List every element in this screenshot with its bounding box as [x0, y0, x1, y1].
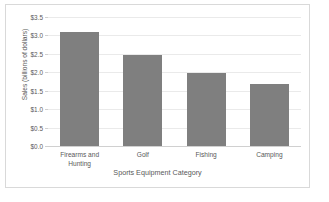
y-axis-tick-mark	[45, 54, 48, 55]
y-axis-tick-label: $2.0	[31, 69, 43, 76]
y-axis-tick-label: $3.0	[31, 32, 43, 39]
y-axis-title: Sales (billions of dollars)	[21, 0, 28, 130]
y-axis-tick-label: $2.5	[31, 50, 43, 57]
bar[interactable]	[123, 55, 162, 146]
y-axis-tick-mark	[45, 72, 48, 73]
y-axis-tick-mark	[45, 146, 48, 147]
y-axis-tick-label: $0.0	[31, 143, 43, 150]
x-axis-category-label: Golf	[111, 151, 174, 160]
bar[interactable]	[187, 73, 226, 146]
gridline	[48, 146, 301, 147]
y-axis-tick-mark	[45, 128, 48, 129]
y-axis-tick-mark	[45, 35, 48, 36]
chart-container: Sales (billions of dollars) $0.0$0.5$1.0…	[5, 4, 310, 188]
y-axis-tick-label: $1.0	[31, 106, 43, 113]
gridline	[48, 17, 301, 18]
y-axis-tick-label: $0.5	[31, 124, 43, 131]
y-axis-tick-label: $3.5	[31, 14, 43, 21]
y-axis-tick-mark	[45, 109, 48, 110]
plot-area: $0.0$0.5$1.0$1.5$2.0$2.5$3.0$3.5 Firearm…	[48, 17, 301, 146]
x-axis-title: Sports Equipment Category	[6, 168, 309, 177]
y-axis-tick-mark	[45, 17, 48, 18]
bar[interactable]	[250, 84, 289, 146]
x-axis-category-label: Firearms and Hunting	[48, 151, 111, 168]
y-axis-tick-mark	[45, 91, 48, 92]
x-axis-category-label: Camping	[238, 151, 301, 160]
y-axis-tick-label: $1.5	[31, 87, 43, 94]
x-axis-category-label: Fishing	[175, 151, 238, 160]
bar[interactable]	[60, 32, 99, 146]
